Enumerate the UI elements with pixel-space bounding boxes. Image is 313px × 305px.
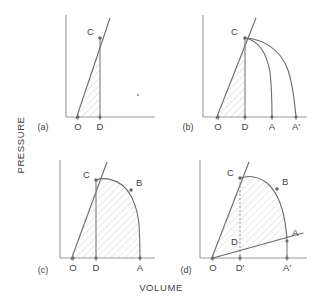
- panel-b-caption: (b): [183, 122, 194, 132]
- panel-a-ticklabel-d: D: [97, 121, 104, 132]
- panel-d-point-o: [211, 256, 214, 259]
- panel-c-point-a: [138, 256, 141, 259]
- panel-c-point-c: [94, 178, 98, 182]
- panel-a-shaded-region: [78, 38, 100, 117]
- panel-d-point-b: [275, 187, 279, 191]
- panel-a: C O D (a): [38, 15, 156, 132]
- panel-a-ticklabel-o: O: [74, 121, 81, 132]
- panel-d-point-aprime: [285, 256, 288, 259]
- panel-c-label-c: C: [83, 169, 90, 180]
- panel-d-label-a: A: [292, 227, 299, 238]
- panel-b-label-c: C: [231, 26, 238, 37]
- panel-a-point-c: [98, 36, 102, 40]
- panel-c-ticklabel-o: O: [69, 262, 76, 273]
- panel-c-ticklabel-d: D: [93, 262, 100, 273]
- panel-d: C B D A O D' A' (d): [181, 160, 308, 275]
- panel-d-ticklabel-o: O: [209, 262, 216, 273]
- panel-c-point-d: [94, 256, 97, 259]
- panel-c-ticklabel-a: A: [137, 262, 144, 273]
- panel-a-label-c: C: [87, 26, 94, 37]
- x-axis-title: VOLUME: [139, 282, 183, 293]
- panel-b-ticklabel-aprime: A': [292, 121, 300, 132]
- panel-d-label-d: D: [231, 236, 238, 247]
- panel-b-point-o: [216, 115, 219, 118]
- panel-b-ticklabel-a: A: [269, 121, 276, 132]
- panel-b: C O D A A' (b): [183, 15, 308, 132]
- panel-c-point-b: [129, 188, 133, 192]
- panel-a-caption: (a): [38, 122, 49, 132]
- panel-b-point-d: [243, 115, 246, 118]
- panel-b-ticklabel-o: O: [214, 121, 221, 132]
- panel-b-point-c: [243, 36, 247, 40]
- panel-d-point-a: [285, 239, 288, 242]
- panel-b-point-aprime: [294, 115, 297, 118]
- panel-b-curve-c-a: [245, 38, 272, 117]
- panel-b-ticklabel-d: D: [242, 121, 249, 132]
- panel-a-point-o: [76, 115, 79, 118]
- y-axis-title: PRESSURE: [15, 116, 26, 173]
- panel-d-label-b: B: [282, 176, 288, 187]
- panel-d-caption: (d): [181, 265, 192, 275]
- pressure-volume-figure: C O D (a) C O D A: [0, 0, 313, 305]
- panel-c-point-o: [71, 256, 74, 259]
- panel-b-point-a: [270, 115, 273, 118]
- panel-a-point-d: [98, 115, 101, 118]
- panel-d-ticklabel-aprime: A': [283, 262, 291, 273]
- panel-c: C B O D A (c): [38, 160, 155, 275]
- panel-d-label-c: C: [227, 167, 234, 178]
- scan-speck: [137, 94, 139, 96]
- panel-c-label-b: B: [136, 177, 142, 188]
- panel-c-caption: (c): [38, 265, 49, 275]
- figure-container: C O D (a) C O D A: [0, 0, 313, 305]
- panel-d-ticklabel-dprime: D': [236, 262, 245, 273]
- panel-d-point-dprime: [238, 256, 241, 259]
- panel-d-point-c: [238, 176, 242, 180]
